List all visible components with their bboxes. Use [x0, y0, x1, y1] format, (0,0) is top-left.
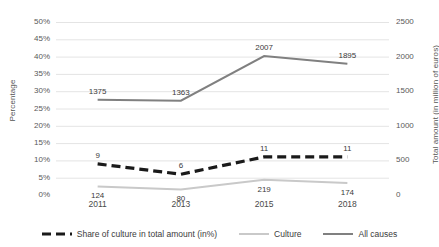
legend-swatch-icon	[323, 230, 353, 238]
legend-label: Share of culture in total amount (in%)	[77, 229, 217, 239]
left-axis-tick-label: 50%	[22, 17, 50, 26]
right-axis-tick-label: 1500	[396, 86, 426, 95]
data-point-label: 124	[74, 191, 122, 200]
x-axis-tick-label: 2011	[75, 199, 121, 209]
data-point-label: 1375	[74, 87, 122, 96]
data-point-label: 1895	[323, 51, 371, 60]
left-axis-tick-label: 25%	[22, 104, 50, 113]
left-axis-tick-label: 20%	[22, 121, 50, 130]
legend-item[interactable]: Culture	[239, 229, 301, 239]
right-axis-tick-label: 2500	[396, 17, 426, 26]
data-point-label: 1363	[157, 88, 205, 97]
x-axis-tick-label: 2018	[324, 199, 370, 209]
left-axis-tick-label: 40%	[22, 52, 50, 61]
series-line	[98, 56, 348, 101]
chart-legend: Share of culture in total amount (in%)Cu…	[0, 224, 439, 244]
data-point-label: 11	[240, 144, 288, 153]
data-point-label: 80	[157, 194, 205, 203]
plot-area	[56, 22, 389, 195]
chart-container: Percentage Total amount (in million of e…	[0, 0, 439, 247]
data-point-label: 2007	[240, 43, 288, 52]
legend-label: Culture	[274, 229, 301, 239]
legend-swatch-icon	[239, 230, 269, 238]
data-point-label: 174	[323, 188, 371, 197]
left-axis-title: Percentage	[8, 51, 17, 151]
left-axis-tick-label: 15%	[22, 138, 50, 147]
gridlines	[56, 23, 389, 196]
left-axis-tick-label: 10%	[22, 155, 50, 164]
legend-label: All causes	[358, 229, 397, 239]
left-axis-tick-label: 5%	[22, 173, 50, 182]
left-axis-tick-label: 30%	[22, 86, 50, 95]
legend-item[interactable]: All causes	[323, 229, 397, 239]
data-point-label: 6	[157, 161, 205, 170]
data-point-label: 219	[240, 185, 288, 194]
legend-swatch-icon	[42, 230, 72, 238]
plot-svg	[56, 22, 389, 195]
right-axis-tick-label: 2000	[396, 52, 426, 61]
right-axis-tick-label: 1000	[396, 121, 426, 130]
right-axis-title: Total amount (in million of euros)	[431, 25, 439, 185]
data-point-label: 9	[74, 151, 122, 160]
series-lines	[98, 56, 348, 189]
right-axis-tick-label: 500	[396, 155, 426, 164]
left-axis-tick-label: 45%	[22, 34, 50, 43]
series-line	[98, 157, 348, 174]
legend-item[interactable]: Share of culture in total amount (in%)	[42, 229, 217, 239]
left-axis-tick-label: 0%	[22, 190, 50, 199]
series-line	[98, 180, 348, 190]
data-point-label: 11	[323, 144, 371, 153]
right-axis-tick-label: 0	[396, 190, 426, 199]
x-axis-tick-label: 2015	[241, 199, 287, 209]
left-axis-tick-label: 35%	[22, 69, 50, 78]
